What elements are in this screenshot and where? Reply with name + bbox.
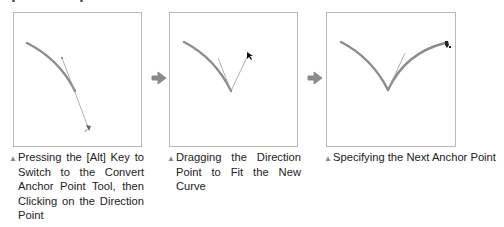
- step-1-illustration: [13, 12, 142, 147]
- caption-text: Specifying the Next Anchor Point: [333, 150, 503, 165]
- step-2-drawing: [170, 13, 299, 148]
- direction-point: [61, 57, 63, 59]
- arrow-pointer-cursor-icon: [247, 52, 253, 60]
- step-3-drawing: [327, 13, 457, 148]
- convert-anchor-point-cursor-icon: [85, 125, 91, 132]
- triangle-marker-icon: ▲: [324, 152, 332, 167]
- triangle-marker-icon: ▲: [9, 152, 17, 167]
- step-1-caption: ▲ Pressing the [Alt] Key to Switch to th…: [18, 150, 144, 223]
- cropped-text-fragment: [80, 0, 83, 2]
- right-arrow-icon: [307, 70, 323, 86]
- step-2-illustration: [169, 12, 298, 147]
- bezier-curve-right: [388, 43, 445, 90]
- pen-tool-cursor-icon: [445, 41, 451, 48]
- bezier-curve: [184, 42, 231, 91]
- step-3-caption: ▲ Specifying the Next Anchor Point: [333, 150, 503, 165]
- direction-line: [62, 58, 88, 127]
- caption-text: Dragging the Direction Point to Fit the …: [176, 150, 301, 194]
- bezier-curve-left: [341, 42, 388, 90]
- triangle-marker-icon: ▲: [167, 152, 175, 167]
- step-1-drawing: [14, 13, 143, 148]
- step-3-illustration: [326, 12, 456, 147]
- direction-line: [388, 53, 405, 90]
- caption-text: Pressing the [Alt] Key to Switch to the …: [18, 150, 144, 223]
- right-arrow-icon: [151, 70, 167, 86]
- bezier-curve: [27, 43, 75, 91]
- step-2-caption: ▲ Dragging the Direction Point to Fit th…: [176, 150, 301, 194]
- direction-line: [231, 55, 248, 91]
- cropped-text-fragment: [12, 0, 15, 2]
